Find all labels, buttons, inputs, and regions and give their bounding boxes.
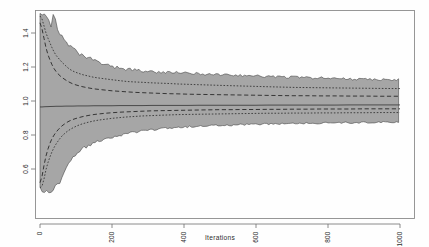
y-tick-label: 0.8 <box>22 130 29 140</box>
chart-figure: 1.41.21.00.80.6 02004006008001000 Iterat… <box>0 0 429 247</box>
y-tick-label: 1.0 <box>22 96 29 106</box>
y-tick-label: 1.2 <box>22 62 29 72</box>
x-tick-label: 800 <box>324 231 331 243</box>
y-tick-label: 0.6 <box>22 164 29 174</box>
y-tick-label: 1.4 <box>22 28 29 38</box>
x-tick-label: 600 <box>252 231 259 243</box>
x-tick-label: 400 <box>180 231 187 243</box>
x-tick-label: 0 <box>36 231 43 235</box>
x-tick-label: 200 <box>108 231 115 243</box>
chart-svg: 1.41.21.00.80.6 02004006008001000 Iterat… <box>0 0 429 247</box>
x-axis-title: Iterations <box>205 234 236 241</box>
x-tick-label: 1000 <box>396 231 403 246</box>
